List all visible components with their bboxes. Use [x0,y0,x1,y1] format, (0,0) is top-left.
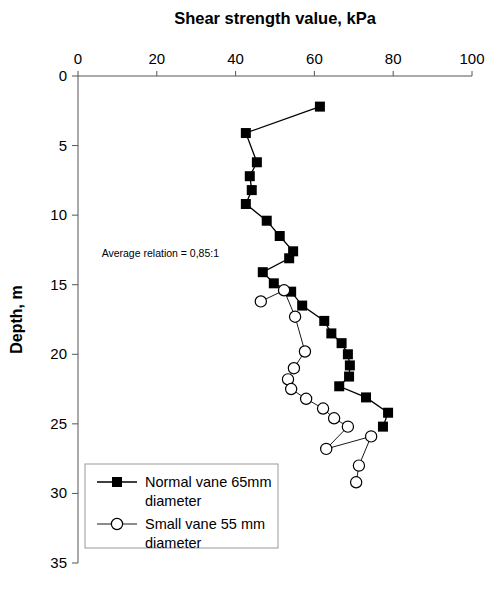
y-tick-label: 10 [50,206,67,223]
data-point-square[interactable] [245,171,255,181]
data-point-square[interactable] [383,408,393,418]
data-point-circle[interactable] [353,460,364,471]
y-tick-label: 35 [50,554,67,571]
x-tick-label: 20 [148,50,165,67]
data-point-square[interactable] [326,328,336,338]
legend-marker-circle [111,518,122,529]
data-point-square[interactable] [319,316,329,326]
x-tick-label: 0 [74,50,82,67]
data-point-square[interactable] [297,301,307,311]
data-point-circle[interactable] [301,393,312,404]
data-point-circle[interactable] [299,346,310,357]
data-point-circle[interactable] [288,363,299,374]
data-point-square[interactable] [241,199,251,209]
legend-label-line1: Normal vane 65mm [145,474,272,490]
data-point-circle[interactable] [366,431,377,442]
data-point-square[interactable] [337,338,347,348]
data-point-square[interactable] [284,253,294,263]
data-point-circle[interactable] [278,285,289,296]
x-tick-label: 80 [385,50,402,67]
data-point-circle[interactable] [329,413,340,424]
data-point-square[interactable] [258,267,268,277]
y-tick-label: 5 [59,137,67,154]
legend-label-line1: Small vane 55 mm [145,516,265,532]
data-point-circle[interactable] [321,443,332,454]
y-tick-label: 30 [50,484,67,501]
data-point-circle[interactable] [286,383,297,394]
data-point-circle[interactable] [317,403,328,414]
y-axis-label: Depth, m [8,285,25,353]
y-tick-label: 15 [50,276,67,293]
data-point-square[interactable] [315,102,325,112]
data-point-square[interactable] [241,128,251,138]
data-point-square[interactable] [262,216,272,226]
series-line-1 [261,290,371,482]
data-point-square[interactable] [252,157,262,167]
data-point-circle[interactable] [351,477,362,488]
x-tick-label: 60 [306,50,323,67]
legend-label-line2: diameter [145,535,202,551]
chart-title: Shear strength value, kPa [174,9,377,27]
chart-container: Shear strength value, kPa020406080100051… [0,0,503,592]
data-point-square[interactable] [247,185,257,195]
x-tick-label: 100 [459,50,484,67]
shear-strength-depth-chart: Shear strength value, kPa020406080100051… [0,0,503,592]
data-point-square[interactable] [334,381,344,391]
x-tick-label: 40 [227,50,244,67]
data-point-square[interactable] [361,392,371,402]
data-point-circle[interactable] [255,296,266,307]
legend-label-line2: diameter [145,493,202,509]
data-point-circle[interactable] [342,421,353,432]
chart-annotation: Average relation = 0,85:1 [102,247,220,259]
data-point-square[interactable] [378,422,388,432]
y-tick-label: 25 [50,415,67,432]
data-point-square[interactable] [344,372,354,382]
data-point-circle[interactable] [289,311,300,322]
data-point-square[interactable] [345,360,355,370]
data-point-square[interactable] [269,278,279,288]
y-tick-label: 0 [59,67,67,84]
series-line-0 [246,107,388,427]
data-point-square[interactable] [275,231,285,241]
data-point-square[interactable] [343,349,353,359]
legend-marker-square [112,477,122,487]
y-tick-label: 20 [50,345,67,362]
